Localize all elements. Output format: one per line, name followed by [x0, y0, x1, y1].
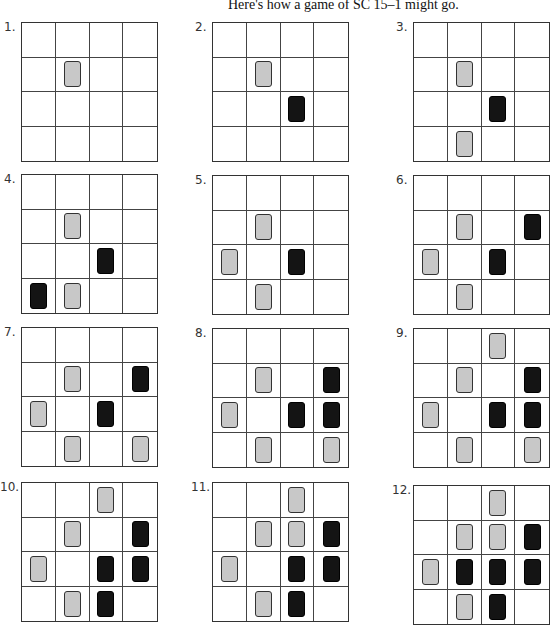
- black-piece-icon: [524, 367, 541, 393]
- gray-piece-icon: [64, 591, 81, 617]
- diagram-number: 2.: [195, 20, 206, 34]
- board-cell: [281, 552, 315, 587]
- board-cell: [448, 280, 482, 315]
- board-cell: [414, 92, 448, 127]
- board-cell: [314, 92, 348, 127]
- board-cell: [22, 92, 56, 127]
- black-piece-icon: [456, 559, 473, 585]
- gray-piece-icon: [456, 437, 473, 463]
- game-board: [21, 482, 158, 622]
- board-cell: [90, 552, 124, 587]
- board-cell: [22, 518, 56, 553]
- board-cell: [247, 518, 281, 553]
- board-cell: [22, 210, 56, 245]
- board-cell: [90, 518, 124, 553]
- board-cell: [247, 587, 281, 622]
- board-cell: [482, 127, 516, 162]
- board-cell: [281, 587, 315, 622]
- board-cell: [56, 552, 90, 587]
- board-cell: [213, 211, 247, 246]
- diagram-number: 10.: [0, 480, 19, 494]
- board-cell: [414, 433, 448, 468]
- board-cell: [22, 483, 56, 518]
- board-cell: [247, 398, 281, 433]
- board-cell: [123, 552, 157, 587]
- game-board: [212, 22, 349, 162]
- board-cell: [247, 483, 281, 518]
- board-cell: [414, 364, 448, 399]
- board-cell: [314, 280, 348, 315]
- board-cell: [56, 175, 90, 210]
- board-cell: [515, 486, 549, 521]
- board-cell: [213, 176, 247, 211]
- board-cell: [247, 23, 281, 58]
- board-cell: [22, 244, 56, 279]
- black-piece-icon: [489, 559, 506, 585]
- diagram-number: 1.: [4, 20, 15, 34]
- board-cell: [22, 587, 56, 622]
- board-cell: [123, 23, 157, 58]
- board-cell: [90, 397, 124, 432]
- board-cell: [213, 23, 247, 58]
- board-cell: [482, 364, 516, 399]
- board-cell: [515, 176, 549, 211]
- diagram-number: 7.: [4, 325, 15, 339]
- board-cell: [22, 432, 56, 467]
- board-cell: [314, 211, 348, 246]
- board-cell: [482, 211, 516, 246]
- board-cell: [482, 555, 516, 590]
- board-cell: [314, 587, 348, 622]
- board-cell: [22, 58, 56, 93]
- board-cell: [448, 92, 482, 127]
- black-piece-icon: [97, 556, 114, 582]
- board-cell: [482, 398, 516, 433]
- board-cell: [123, 92, 157, 127]
- gray-piece-icon: [456, 284, 473, 310]
- board-cell: [515, 398, 549, 433]
- black-piece-icon: [524, 402, 541, 428]
- gray-piece-icon: [255, 61, 272, 87]
- board-cell: [482, 521, 516, 556]
- board-cell: [213, 483, 247, 518]
- board-cell: [314, 364, 348, 399]
- board-cell: [90, 432, 124, 467]
- black-piece-icon: [97, 401, 114, 427]
- gray-piece-icon: [456, 367, 473, 393]
- game-board: [413, 328, 550, 468]
- board-cell: [123, 397, 157, 432]
- gray-piece-icon: [255, 284, 272, 310]
- gray-piece-icon: [422, 559, 439, 585]
- board-cell: [56, 483, 90, 518]
- board-cell: [213, 518, 247, 553]
- board-cell: [515, 92, 549, 127]
- board-cell: [56, 58, 90, 93]
- board-cell: [213, 280, 247, 315]
- board-cell: [448, 58, 482, 93]
- board-cell: [123, 328, 157, 363]
- board-cell: [90, 23, 124, 58]
- board-cell: [213, 398, 247, 433]
- gray-piece-icon: [64, 366, 81, 392]
- board-cell: [482, 280, 516, 315]
- gray-piece-icon: [30, 556, 47, 582]
- board-cell: [22, 552, 56, 587]
- gray-piece-icon: [456, 594, 473, 620]
- gray-piece-icon: [456, 131, 473, 157]
- board-cell: [123, 587, 157, 622]
- board-cell: [281, 127, 315, 162]
- board-cell: [213, 92, 247, 127]
- board-cell: [515, 280, 549, 315]
- board-cell: [515, 364, 549, 399]
- board-cell: [281, 245, 315, 280]
- board-cell: [314, 58, 348, 93]
- gray-piece-icon: [64, 213, 81, 239]
- board-cell: [22, 328, 56, 363]
- board-cell: [247, 280, 281, 315]
- board-cell: [414, 555, 448, 590]
- gray-piece-icon: [489, 524, 506, 550]
- board-cell: [448, 555, 482, 590]
- gray-piece-icon: [255, 437, 272, 463]
- gray-piece-icon: [456, 524, 473, 550]
- board-cell: [90, 127, 124, 162]
- board-cell: [314, 552, 348, 587]
